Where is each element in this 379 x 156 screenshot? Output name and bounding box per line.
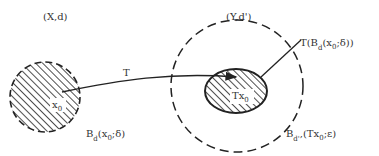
image-set: Tx0 bbox=[200, 65, 275, 117]
image-set-label: T(Bd(x0;δ)) bbox=[300, 37, 354, 52]
diagram-canvas: (X,d) (Y,d') x0 Bd(x0;δ) Tx0 T T(Bd(x0;δ… bbox=[0, 0, 379, 156]
domain-ball: x0 bbox=[5, 57, 85, 137]
image-set-pointer-line bbox=[261, 40, 301, 77]
domain-space-label: (X,d) bbox=[43, 11, 68, 22]
diagram-svg: (X,d) (Y,d') x0 Bd(x0;δ) Tx0 T T(Bd(x0;δ… bbox=[0, 0, 379, 156]
codomain-ball-label: Bd',(Tx0;ε) bbox=[286, 128, 336, 143]
domain-ball-label: Bd(x0;δ) bbox=[86, 128, 125, 143]
map-label: T bbox=[123, 67, 130, 78]
domain-ball-hatching bbox=[5, 57, 85, 137]
